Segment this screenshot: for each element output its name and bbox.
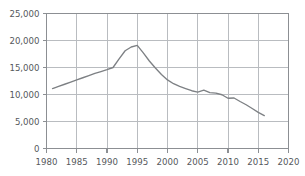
y-tick-label: 0 <box>34 144 39 154</box>
y-tick-label: 5,000 <box>15 117 40 127</box>
chart-canvas: 05,00010,00015,00020,00025,000 198019851… <box>0 0 305 176</box>
y-tick-label: 20,000 <box>9 36 39 46</box>
x-tick-label: 1990 <box>96 157 118 167</box>
y-tick-label: 10,000 <box>9 90 39 100</box>
x-tick-label: 1980 <box>36 157 58 167</box>
line-chart: 05,00010,00015,00020,00025,000 198019851… <box>0 0 305 176</box>
y-tick-label: 15,000 <box>9 63 39 73</box>
x-tick-label: 1985 <box>66 157 88 167</box>
x-tick-label: 2005 <box>187 157 209 167</box>
y-tick-label: 25,000 <box>9 9 39 19</box>
x-tick-label: 2020 <box>278 157 300 167</box>
x-tick-label: 1995 <box>126 157 148 167</box>
x-tick-label: 2015 <box>247 157 269 167</box>
plot-background <box>0 0 305 176</box>
x-axis-tick-labels: 198019851990199520002005201020152020 <box>36 157 300 167</box>
x-tick-label: 2000 <box>157 157 179 167</box>
x-tick-label: 2010 <box>217 157 239 167</box>
